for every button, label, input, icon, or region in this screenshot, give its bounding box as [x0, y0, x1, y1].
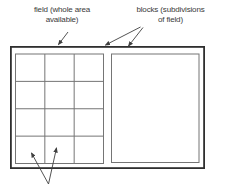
- field-outline: [11, 47, 204, 168]
- plain-block: [112, 54, 200, 163]
- field-pointer-arrow: [59, 32, 69, 45]
- blocks-pointer-arrow-left: [106, 27, 141, 45]
- diagram-canvas: [0, 0, 226, 192]
- grid-block: [16, 54, 104, 164]
- blocks-pointer-arrow-right: [129, 28, 144, 47]
- experimental-field-diagram: field (whole area available) blocks (sub…: [0, 0, 226, 192]
- plot-pointer-arrow-right: [49, 148, 57, 184]
